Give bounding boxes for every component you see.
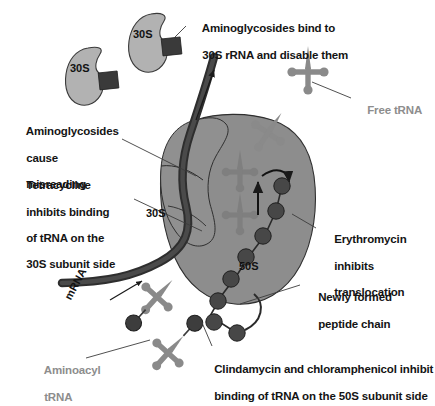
label-aminoacyl-trna: Aminoacyl tRNA — [32, 351, 101, 406]
label-clindamycin: Clindamycin and chloramphenicol inhibit … — [202, 350, 433, 406]
label-ribosome-50s: 50S — [239, 260, 259, 272]
free-30s-subunit-upper — [129, 13, 182, 72]
label-free-trna: Free tRNA — [355, 91, 422, 131]
label-aminoglycosides-bind: Aminoglycosides bind to 30S rRNA and dis… — [190, 9, 348, 75]
aminoglycoside-block-upper — [161, 37, 182, 56]
leader-free-trna — [312, 82, 351, 98]
label-free-30s-lower: 30S — [70, 62, 90, 74]
label-tetracycline: Tetracycline inhibits binding of tRNA on… — [14, 166, 115, 285]
free-30s-subunit-lower — [66, 47, 119, 105]
label-newly-formed-peptide-chain: Newly formed peptide chain — [306, 278, 392, 344]
aminoglycoside-block-lower — [98, 71, 119, 90]
label-free-30s-upper: 30S — [133, 28, 153, 40]
label-ribosome-30s: 30S — [146, 207, 166, 219]
